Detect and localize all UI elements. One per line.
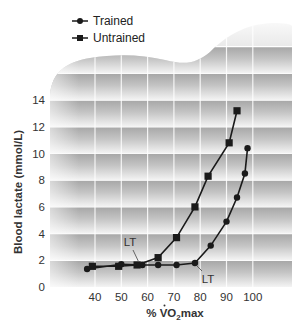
y-tick-label: 14: [32, 94, 45, 106]
data-point: [208, 242, 214, 248]
data-point: [89, 263, 96, 270]
y-tick-label: 10: [32, 148, 45, 160]
legend: Trained Untrained: [72, 14, 145, 45]
data-point: [155, 254, 162, 261]
data-point: [173, 262, 179, 268]
data-point: [244, 145, 250, 151]
x-tick-label: 70: [168, 291, 181, 303]
x-tick-label: 60: [141, 291, 154, 303]
y-tick-label: 2: [39, 254, 45, 266]
data-point: [173, 234, 180, 241]
legend-label-untrained: Untrained: [93, 31, 145, 45]
lt-label-untrained: LT: [124, 236, 137, 248]
y-tick-label: 6: [39, 201, 45, 213]
legend-item-trained: Trained: [72, 14, 133, 28]
data-point: [242, 170, 248, 176]
y-tick-label: 0: [39, 281, 45, 293]
x-tick-label: 50: [115, 291, 128, 303]
square-marker-icon: [77, 35, 83, 41]
lactate-threshold-chart: 02468101214 405060708090100 Blood lactat…: [0, 0, 301, 332]
y-axis-ticks: 02468101214: [32, 94, 45, 293]
data-point: [115, 263, 122, 270]
lt-label-trained: LT: [202, 273, 215, 285]
svg-text:% VO2max: % VO2max: [146, 307, 204, 322]
y-tick-label: 12: [32, 121, 45, 133]
y-axis-title: Blood lactate (mmol/L): [12, 130, 24, 254]
legend-label-trained: Trained: [93, 14, 133, 28]
dot-accent: [164, 305, 166, 307]
y-tick-label: 8: [39, 174, 45, 186]
x-tick-label: 40: [89, 291, 102, 303]
x-tick-label: 100: [243, 291, 262, 303]
data-point: [223, 218, 229, 224]
circle-marker-icon: [77, 18, 83, 24]
data-point: [191, 203, 198, 210]
y-tick-label: 4: [39, 228, 46, 240]
data-point: [192, 260, 198, 266]
x-tick-label: 90: [220, 291, 233, 303]
data-point: [204, 173, 211, 180]
x-axis-title: % VO2max: [146, 305, 204, 323]
x-tick-label: 80: [194, 291, 207, 303]
data-point: [226, 139, 233, 146]
data-point: [155, 262, 161, 268]
plot-background: [50, 15, 292, 295]
legend-item-untrained: Untrained: [72, 31, 145, 45]
data-point: [234, 194, 240, 200]
data-point: [233, 107, 240, 114]
data-point: [133, 261, 140, 268]
